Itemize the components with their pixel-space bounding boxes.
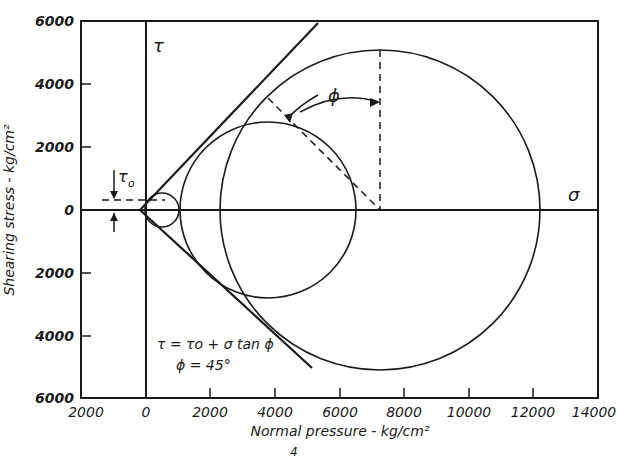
x-tick: 12000: [511, 404, 556, 420]
y-tick: 4000: [34, 328, 74, 344]
tau0-subscript: o: [128, 177, 135, 190]
phi-label: ϕ: [328, 85, 340, 106]
x-axis-label: Normal pressure - kg/cm²: [250, 423, 429, 439]
phi-value: ϕ = 45°: [176, 357, 231, 373]
tau0-label: τ: [118, 167, 128, 186]
x-tick: 0: [142, 404, 151, 420]
equation: τ = τo + σ tan ϕ: [157, 336, 274, 352]
x-tick: 8000: [386, 404, 422, 420]
x-tick: 6000: [322, 404, 358, 420]
x-tick: 4000: [257, 404, 293, 420]
sigma-label: σ: [568, 184, 580, 205]
x-tick: 2000: [192, 404, 228, 420]
y-tick: 6000: [35, 13, 74, 29]
x-tick: 2000: [68, 404, 104, 420]
x-tick: 14000: [572, 404, 617, 420]
x-tick: 10000: [447, 404, 492, 420]
y-tick: 4000: [34, 76, 74, 92]
footer-mark: 4: [290, 445, 298, 458]
y-axis-label: Shearing stress - kg/cm²: [1, 124, 17, 296]
y-tick: 2000: [35, 139, 74, 155]
mohr-diagram: 6000 4000 2000 0 2000 4000 6000 2000 0 2…: [0, 0, 618, 458]
tau-label: τ: [153, 35, 164, 56]
y-tick: 2000: [35, 265, 74, 281]
y-tick: 0: [64, 202, 74, 218]
failure-envelope: [140, 23, 318, 368]
